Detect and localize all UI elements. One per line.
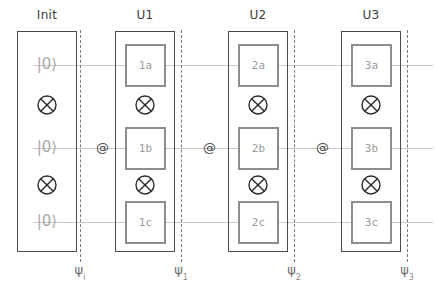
gate-box-2b[interactable]: 2b (238, 127, 279, 170)
circuit-diagram-canvas: InitU1U2U3 |0⟩|0⟩|0⟩ 1a1b1c2a2b2c3a3b3c … (0, 0, 435, 289)
ket-label: |0⟩ (17, 56, 77, 72)
gate-box-2a[interactable]: 2a (238, 44, 279, 87)
psi-subscript: 1 (183, 273, 188, 282)
column-header-init: Init (17, 8, 77, 22)
state-label-psi-1: ψ1 (161, 262, 201, 283)
tensor-u3-bottom (361, 175, 381, 195)
column-header-u3: U3 (341, 8, 401, 22)
barrier-u1 (181, 30, 182, 262)
gate-label-2a: 2a (252, 60, 266, 72)
psi-symbol: ψ (75, 262, 84, 277)
gate-box-1b[interactable]: 1b (125, 127, 166, 170)
tensor-u1-bottom (135, 175, 155, 195)
psi-symbol: ψ (174, 262, 183, 277)
gate-box-3c[interactable]: 3c (351, 201, 392, 244)
gate-label-1c: 1c (139, 217, 153, 229)
tensor-u2-top (248, 95, 268, 115)
at-connector-2: @ (203, 141, 216, 155)
psi-subscript: i (83, 273, 85, 282)
gate-box-1c[interactable]: 1c (125, 201, 166, 244)
psi-symbol: ψ (287, 262, 296, 277)
column-header-u2: U2 (228, 8, 288, 22)
at-connector-3: @ (316, 141, 329, 155)
barrier-u3 (407, 30, 408, 262)
psi-subscript: 3 (409, 273, 414, 282)
tensor-init-bottom (37, 175, 57, 195)
gate-label-3a: 3a (365, 60, 379, 72)
gate-label-2b: 2b (252, 143, 266, 155)
gate-box-3b[interactable]: 3b (351, 127, 392, 170)
barrier-init (80, 30, 81, 262)
ket-label: |0⟩ (17, 139, 77, 155)
gate-label-2c: 2c (252, 217, 266, 229)
gate-label-1a: 1a (139, 60, 153, 72)
gate-label-1b: 1b (139, 143, 153, 155)
gate-label-3b: 3b (365, 143, 379, 155)
gate-label-3c: 3c (365, 217, 379, 229)
state-label-psi-i: ψi (60, 262, 100, 283)
state-label-psi-3: ψ3 (387, 262, 427, 283)
barrier-u2 (294, 30, 295, 262)
gate-box-2c[interactable]: 2c (238, 201, 279, 244)
column-header-u1: U1 (115, 8, 175, 22)
psi-subscript: 2 (296, 273, 301, 282)
tensor-u2-bottom (248, 175, 268, 195)
tensor-init-top (37, 95, 57, 115)
gate-box-3a[interactable]: 3a (351, 44, 392, 87)
tensor-u3-top (361, 95, 381, 115)
tensor-u1-top (135, 95, 155, 115)
psi-symbol: ψ (400, 262, 409, 277)
ket-label: |0⟩ (17, 213, 77, 229)
at-connector-1: @ (96, 141, 109, 155)
state-label-psi-2: ψ2 (274, 262, 314, 283)
gate-box-1a[interactable]: 1a (125, 44, 166, 87)
